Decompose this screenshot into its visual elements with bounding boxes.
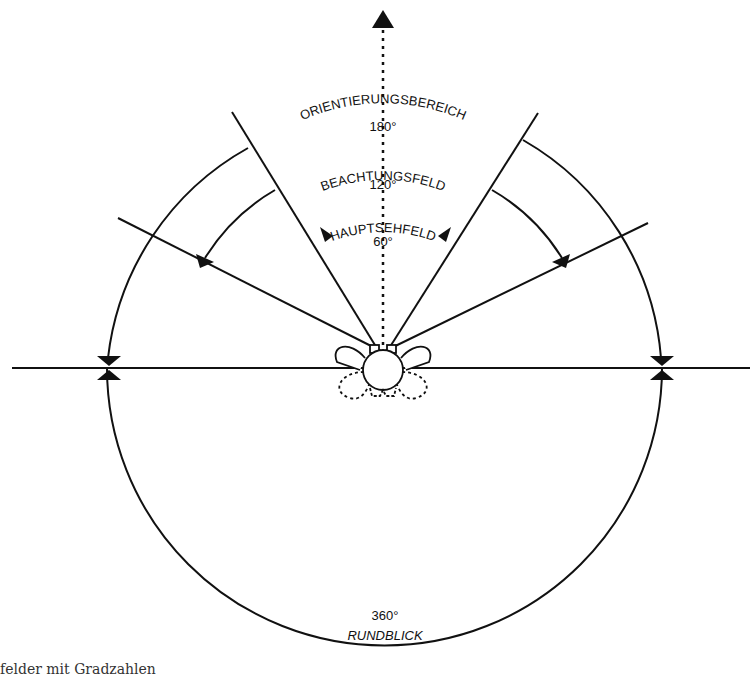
left-marker-top-icon [97, 356, 121, 366]
beacht-degrees: 120° [370, 177, 397, 192]
left-inner-arc [205, 190, 275, 258]
figure-caption: felder mit Gradzahlen [0, 661, 156, 677]
visual-field-diagram: ORIENTIERUNGSBEREICH 180° BEACHTUNGSFELD… [0, 0, 753, 678]
haupt-degrees: 60° [373, 234, 393, 249]
left-marker-bottom-icon [97, 370, 121, 380]
right-marker-bottom-icon [650, 370, 674, 380]
rundblick-arc [107, 368, 662, 646]
observer-head-icon [336, 345, 431, 399]
rund-degrees: 360° [372, 608, 399, 623]
orient-degrees: 180° [370, 119, 397, 134]
left-outer-arc [108, 148, 248, 358]
right-haupt-arrow-icon [438, 227, 451, 242]
right-marker-top-icon [650, 356, 674, 366]
right-inner-arc [492, 190, 562, 258]
right-outer-arc [523, 140, 661, 358]
arrow-up-icon [372, 10, 394, 28]
rund-label: RUNDBLICK [347, 628, 423, 643]
right-beachtung-line [383, 223, 648, 352]
